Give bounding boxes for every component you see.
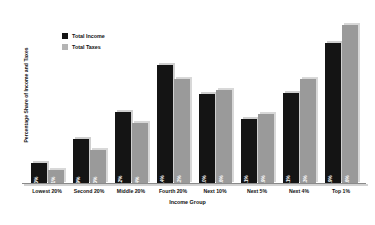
bar-group: 11.2%9.4% [110,16,152,184]
x-tick-label: Next 5% [236,188,278,194]
legend-item-total-income: Total Income [62,33,105,39]
bar-total-taxes[interactable]: 9.4% [132,123,148,184]
bar-total-income[interactable]: 14.0% [199,94,215,184]
bar-wrapper: 14.6% [216,90,232,184]
bar-group: 21.9%24.6% [320,16,362,184]
bar-total-income[interactable]: 3.3% [31,163,47,184]
x-tick-label: Fourth 20% [152,188,194,194]
bar-wrapper: 16.3% [300,79,316,184]
bar-value-label: 16.3% [303,175,308,188]
bar-value-label: 10.1% [244,175,249,188]
bar-chart: Percentage Share of Income and Taxes 3.3… [0,0,375,225]
axis-baseline [22,183,366,184]
legend-label-taxes: Total Taxes [72,44,101,50]
x-tick-label: Next 10% [194,188,236,194]
axis-baseline-shadow [24,184,368,186]
bar-total-income[interactable]: 21.9% [325,43,341,185]
bar-wrapper: 16.2% [174,79,190,184]
bar-value-label: 14.1% [286,175,291,188]
bar-group: 18.4%16.2% [152,16,194,184]
bar-wrapper: 18.4% [157,65,173,184]
bar-total-income[interactable]: 18.4% [157,65,173,184]
bar-wrapper: 21.9% [325,43,341,185]
bar-value-label: 10.9% [261,175,266,188]
bar-total-income[interactable]: 14.1% [283,93,299,184]
legend-label-income: Total Income [72,33,105,39]
bar-group: 14.0%14.6% [194,16,236,184]
bar-value-label: 18.4% [160,175,165,188]
bar-total-taxes[interactable]: 16.3% [300,79,316,184]
bar-total-taxes[interactable]: 24.6% [342,25,358,184]
bar-total-taxes[interactable]: 5.3% [90,150,106,184]
bar-value-label: 11.2% [118,176,123,189]
legend-item-total-taxes: Total Taxes [62,44,105,50]
bar-wrapper: 5.3% [90,150,106,184]
bar-total-taxes[interactable]: 2.1% [48,170,64,184]
chart-legend: Total Income Total Taxes [62,33,105,55]
bar-group: 14.1%16.3% [278,16,320,184]
bar-total-income[interactable]: 11.2% [115,112,131,184]
bar-value-label: 16.2% [177,175,182,188]
bar-total-taxes[interactable]: 10.9% [258,114,274,184]
bar-value-label: 24.6% [345,175,350,188]
bar-wrapper: 11.2% [115,112,131,184]
bar-value-label: 14.0% [202,175,207,188]
bar-wrapper: 6.9% [73,139,89,184]
x-tick-label: Lowest 20% [26,188,68,194]
legend-swatch-icon-taxes [62,44,68,50]
x-tick-label: Second 20% [68,188,110,194]
bar-wrapper: 24.6% [342,25,358,184]
x-tick-label: Middle 20% [110,188,152,194]
bar-value-label: 21.9% [328,175,333,188]
x-axis-title: Income Group [0,199,375,205]
bar-wrapper: 14.0% [199,94,215,184]
bar-wrapper: 2.1% [48,170,64,184]
legend-swatch-icon-income [62,33,68,39]
bar-value-label: 14.6% [219,175,224,188]
bar-wrapper: 9.4% [132,123,148,184]
bar-wrapper: 10.1% [241,119,257,184]
bar-wrapper: 14.1% [283,93,299,184]
bar-group: 10.1%10.9% [236,16,278,184]
x-tick-label: Next 4% [278,188,320,194]
bar-total-income[interactable]: 6.9% [73,139,89,184]
bar-total-income[interactable]: 10.1% [241,119,257,184]
bar-total-taxes[interactable]: 14.6% [216,90,232,184]
bar-total-taxes[interactable]: 16.2% [174,79,190,184]
x-tick-label: Top 1% [320,188,362,194]
bar-wrapper: 3.3% [31,163,47,184]
bar-wrapper: 10.9% [258,114,274,184]
x-axis-tick-labels: Lowest 20%Second 20%Middle 20%Fourth 20%… [22,188,366,194]
